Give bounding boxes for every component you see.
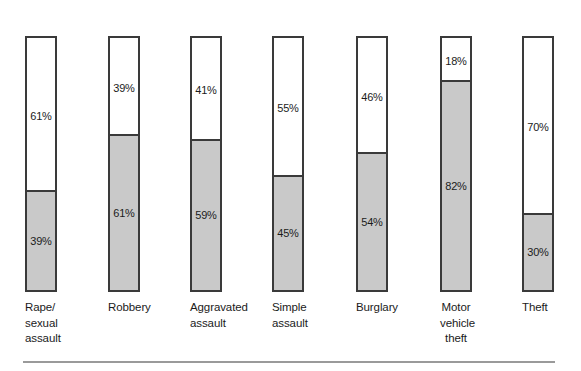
category-label: Robbery — [108, 300, 151, 316]
category-label: Theft — [522, 300, 548, 316]
bar-segment-upper-label: 41% — [195, 85, 216, 96]
category-label: Simple assault — [272, 300, 308, 331]
bar-group: 70%30% — [522, 36, 554, 292]
bar-segment-upper-label: 18% — [445, 56, 466, 67]
bar-segment-lower: 30% — [524, 213, 552, 290]
bar-segment-lower-label: 39% — [30, 236, 51, 247]
stacked-bar: 46%54% — [356, 36, 388, 292]
stacked-bar: 39%61% — [108, 36, 140, 292]
bar-group: 39%61% — [108, 36, 140, 292]
bar-segment-lower: 54% — [358, 152, 386, 290]
bar-segment-upper: 39% — [110, 38, 138, 138]
category-label: Rape/ sexual assault — [25, 300, 61, 347]
stacked-bar: 70%30% — [522, 36, 554, 292]
bar-segment-lower-label: 45% — [277, 228, 298, 239]
bar-segment-lower-label: 30% — [527, 247, 548, 258]
bar-segment-lower: 61% — [110, 134, 138, 290]
bar-group: 18%82% — [440, 36, 472, 292]
bar-group: 61%39% — [25, 36, 57, 292]
bar-segment-upper-label: 46% — [361, 92, 382, 103]
bar-segment-upper-label: 55% — [277, 103, 298, 114]
bar-segment-lower-label: 59% — [195, 210, 216, 221]
stacked-bar: 41%59% — [190, 36, 222, 292]
stacked-bar: 55%45% — [272, 36, 304, 292]
bar-segment-lower-label: 61% — [113, 208, 134, 219]
bar-segment-upper-label: 39% — [113, 83, 134, 94]
bar-group: 46%54% — [356, 36, 388, 292]
bar-segment-upper: 55% — [274, 38, 302, 179]
bar-segment-lower: 45% — [274, 175, 302, 290]
category-label: Motor vehicle theft — [440, 300, 472, 347]
bar-segment-upper-label: 70% — [527, 122, 548, 133]
stacked-bar: 61%39% — [25, 36, 57, 292]
stacked-bar: 18%82% — [440, 36, 472, 292]
bar-segment-upper: 41% — [192, 38, 220, 143]
bar-group: 41%59% — [190, 36, 222, 292]
bar-segment-lower: 59% — [192, 139, 220, 290]
stacked-bar-chart: 61%39%Rape/ sexual assault39%61%Robbery4… — [0, 0, 581, 371]
bar-segment-lower-label: 82% — [445, 181, 466, 192]
category-label: Burglary — [356, 300, 398, 316]
bar-segment-lower: 82% — [442, 80, 470, 290]
bar-segment-upper: 61% — [27, 38, 55, 194]
bar-segment-upper-label: 61% — [30, 111, 51, 122]
bar-segment-lower-label: 54% — [361, 217, 382, 228]
bar-segment-upper: 46% — [358, 38, 386, 156]
bar-segment-upper: 18% — [442, 38, 470, 84]
bottom-divider-rule — [23, 361, 555, 363]
bar-group: 55%45% — [272, 36, 304, 292]
bar-segment-upper: 70% — [524, 38, 552, 217]
bar-segment-lower: 39% — [27, 190, 55, 290]
category-label: Aggravated assault — [190, 300, 248, 331]
